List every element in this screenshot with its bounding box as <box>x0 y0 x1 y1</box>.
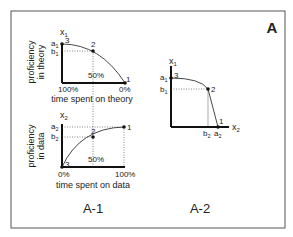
level-a2: a2 <box>214 129 222 139</box>
panel-label-a2: A-2 <box>190 201 210 216</box>
point-2 <box>91 49 95 53</box>
y-axis-title-line1: proficiency <box>26 40 36 84</box>
level-a1: a1 <box>160 73 168 83</box>
point-2-label: 2 <box>91 40 96 49</box>
point-2 <box>206 87 210 91</box>
x-tick-left: 0% <box>58 170 70 179</box>
corner-label: A <box>267 19 278 36</box>
diagram-canvas: A proficiency in theory x1 a1 b1 3 2 1 5… <box>0 0 293 237</box>
point-2-label: 2 <box>91 127 96 136</box>
panel-label-a1: A-1 <box>83 201 103 216</box>
level-b1: b1 <box>160 85 168 95</box>
point-1-label: 1 <box>126 75 131 84</box>
point-3 <box>169 76 173 80</box>
point-3-label: 3 <box>65 160 70 169</box>
point-1-label: 1 <box>127 123 132 132</box>
point-3 <box>60 165 64 169</box>
y-axis-title-line1: proficiency <box>26 124 36 168</box>
x-tick-left: 100% <box>58 85 78 94</box>
point-3-label: 3 <box>65 36 70 45</box>
x-axis-title: time spent on theory <box>51 94 133 104</box>
y-axis-title-line2: in data <box>36 132 46 159</box>
x-axis-title: time spent on data <box>56 180 130 190</box>
point-1-label: 1 <box>219 117 224 126</box>
y-axis-symbol: x1 <box>169 56 178 67</box>
x-axis-symbol: x2 <box>232 122 241 133</box>
chart-a2: x1 a1 b1 3 2 1 x2 b2 a2 <box>160 56 241 139</box>
point-3-label: 3 <box>174 71 179 80</box>
x-tick-right: 0% <box>119 85 131 94</box>
chart-a1-top: proficiency in theory x1 a1 b1 3 2 1 50%… <box>26 27 133 104</box>
level-b2: b2 <box>203 129 211 139</box>
y-axis-symbol: x2 <box>60 110 69 121</box>
level-a2: a2 <box>51 122 59 132</box>
mid-label: 50% <box>88 155 104 164</box>
point-1 <box>122 125 126 129</box>
x-tick-right: 100% <box>115 170 135 179</box>
chart-a1-bottom: proficiency in data x2 a2 b2 3 2 1 50% 0… <box>26 110 135 190</box>
mid-label: 50% <box>88 71 104 80</box>
level-b2: b2 <box>51 132 59 142</box>
point-2-label: 2 <box>211 85 216 94</box>
y-axis-title-line2: in theory <box>36 44 46 79</box>
point-3 <box>60 42 64 46</box>
